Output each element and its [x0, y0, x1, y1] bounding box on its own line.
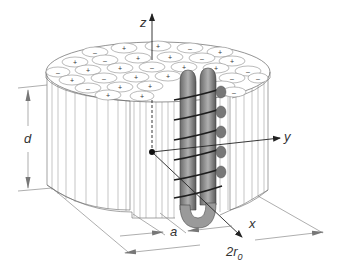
- svg-text:+: +: [140, 93, 144, 100]
- svg-text:–: –: [188, 45, 192, 52]
- svg-text:–: –: [93, 49, 97, 56]
- svg-text:+: +: [182, 64, 186, 71]
- svg-text:+: +: [134, 74, 138, 81]
- svg-text:+: +: [70, 77, 74, 84]
- svg-text:+: +: [156, 43, 160, 50]
- svg-text:–: –: [256, 75, 260, 82]
- svg-text:+: +: [106, 92, 110, 99]
- svg-text:–: –: [230, 75, 234, 82]
- y-axis-label: y: [284, 130, 291, 143]
- diameter-label-subscript: 0: [238, 252, 243, 262]
- svg-text:–: –: [200, 55, 204, 62]
- diameter-dimension-label: 2r0: [226, 245, 243, 262]
- svg-text:+: +: [166, 73, 170, 80]
- origin-point: [149, 149, 155, 155]
- z-axis-label: z: [140, 16, 147, 29]
- svg-text:–: –: [102, 75, 106, 82]
- svg-text:+: +: [86, 67, 90, 74]
- svg-text:+: +: [168, 54, 172, 61]
- svg-text:+: +: [148, 83, 152, 90]
- svg-text:–: –: [232, 89, 236, 96]
- svg-text:+: +: [118, 65, 122, 72]
- svg-text:+: +: [122, 45, 126, 52]
- helical-coil: [174, 68, 226, 228]
- height-dimension-label: d: [24, 132, 31, 145]
- svg-text:–: –: [86, 85, 90, 92]
- svg-text:+: +: [218, 49, 222, 56]
- spacing-dimension-label: a: [170, 225, 177, 238]
- svg-text:–: –: [56, 69, 60, 76]
- svg-text:–: –: [150, 64, 154, 71]
- svg-text:–: –: [103, 57, 107, 64]
- svg-text:+: +: [230, 58, 234, 65]
- svg-text:–: –: [246, 68, 250, 75]
- svg-text:+: +: [73, 59, 77, 66]
- svg-text:+: +: [136, 55, 140, 62]
- x-axis-label: x: [249, 217, 256, 230]
- cylinder-top: –++–+ +–++–+ –++–++– +–++–– –++– ++–: [46, 41, 270, 102]
- svg-text:+: +: [214, 65, 218, 72]
- svg-text:+: +: [118, 84, 122, 91]
- diameter-label-main: 2r: [226, 244, 238, 259]
